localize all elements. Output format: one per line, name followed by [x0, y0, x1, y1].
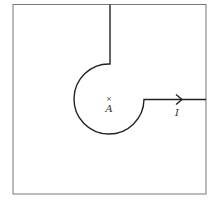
diagram-canvas: × A I: [0, 0, 214, 202]
path-label-i: I: [174, 107, 180, 118]
keyhole-contour: [74, 5, 206, 134]
point-marker: ×: [106, 95, 112, 103]
point-label-a: A: [104, 103, 112, 114]
